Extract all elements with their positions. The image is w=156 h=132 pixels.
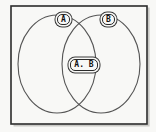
set-a-label: A — [57, 14, 70, 25]
venn-diagram-figure: A B A. B — [0, 0, 156, 132]
set-intersection-label: A. B — [70, 59, 98, 71]
set-b-label: B — [102, 14, 115, 25]
